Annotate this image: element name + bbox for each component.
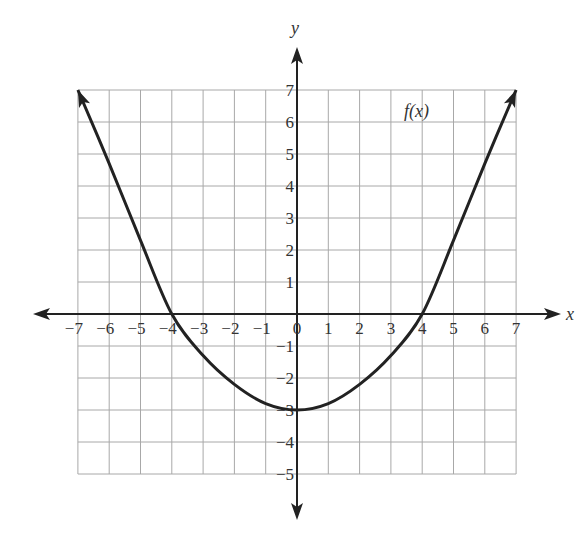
y-tick-label: −5 (276, 465, 294, 484)
x-tick-label: 1 (324, 319, 333, 338)
y-tick-label: 2 (286, 241, 295, 260)
y-tick-label: −2 (276, 369, 294, 388)
y-tick-label: 6 (286, 113, 295, 132)
x-tick-label: −4 (159, 319, 178, 338)
x-tick-label: 7 (512, 319, 521, 338)
y-tick-label: −4 (276, 433, 295, 452)
y-tick-label: 4 (286, 177, 295, 196)
y-tick-label: 1 (286, 273, 295, 292)
x-tick-label: 5 (449, 319, 458, 338)
y-tick-label: 7 (286, 81, 295, 100)
y-tick-label: 5 (286, 145, 295, 164)
function-label: f(x) (404, 101, 429, 122)
x-tick-label: 0 (293, 319, 302, 338)
y-tick-label: 3 (286, 209, 295, 228)
x-tick-label: −3 (190, 319, 208, 338)
x-tick-label: 3 (387, 319, 396, 338)
x-tick-label: −2 (221, 319, 239, 338)
x-tick-label: −1 (253, 319, 271, 338)
x-tick-label: 6 (481, 319, 490, 338)
x-axis-label: x (565, 304, 574, 324)
x-tick-label: −6 (96, 319, 114, 338)
x-tick-label: −5 (127, 319, 145, 338)
function-graph: x y −7−6−5−4−3−2−101234567−5−4−3−2−11234… (0, 0, 587, 538)
axes: x y (33, 18, 574, 520)
y-tick-label: −1 (276, 337, 294, 356)
x-tick-label: −7 (65, 319, 84, 338)
x-tick-label: 2 (355, 319, 364, 338)
y-axis-label: y (289, 18, 299, 38)
